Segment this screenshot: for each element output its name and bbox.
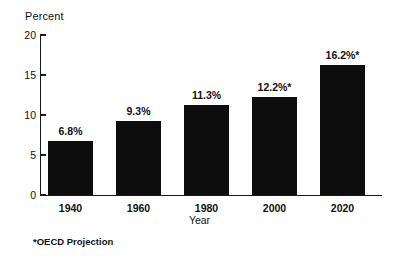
y-tick-label: 0	[12, 190, 36, 201]
y-tick-mark	[40, 34, 46, 35]
y-tick-label: 10	[12, 110, 36, 121]
bar	[48, 141, 93, 195]
y-axis-title: Percent	[25, 10, 64, 22]
x-tick-label: 1960	[104, 203, 173, 214]
x-axis-line	[40, 195, 382, 196]
x-tick-label: 1980	[172, 203, 241, 214]
bar	[184, 105, 229, 195]
y-tick-label: 5	[12, 150, 36, 161]
x-tick-label: 1940	[36, 203, 105, 214]
y-tick-label: 15	[12, 70, 36, 81]
x-tick-label: 2020	[308, 203, 377, 214]
y-tick-mark	[40, 74, 46, 75]
bar-chart-figure: Percent 20151050 6.8%9.3%11.3%12.2%*16.2…	[0, 0, 399, 260]
bar	[116, 121, 161, 195]
x-axis-title: Year	[0, 214, 399, 226]
bar-value-label: 9.3%	[102, 106, 175, 117]
bar-value-label: 11.3%	[170, 90, 243, 101]
y-tick-mark	[40, 154, 46, 155]
plot-area: 20151050 6.8%9.3%11.3%12.2%*16.2%* 19401…	[40, 35, 382, 195]
bar-value-label: 12.2%*	[238, 82, 311, 93]
y-tick-label: 20	[12, 30, 36, 41]
y-tick-mark	[40, 114, 46, 115]
chart-footnote: *OECD Projection	[33, 236, 113, 247]
bar-value-label: 16.2%*	[306, 50, 379, 61]
bar	[252, 97, 297, 195]
bar	[320, 65, 365, 195]
x-tick-label: 2000	[240, 203, 309, 214]
bar-value-label: 6.8%	[34, 126, 107, 137]
y-tick-mark	[40, 194, 46, 195]
